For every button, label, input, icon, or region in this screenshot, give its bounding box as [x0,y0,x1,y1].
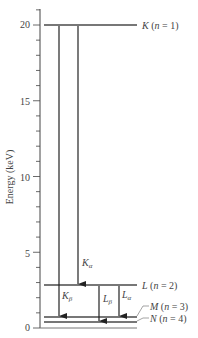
level-label-K: K (n = 1) [141,20,179,32]
level-label-L: L (n = 2) [141,280,177,292]
y-axis-label: Energy (keV) [4,150,16,205]
tick-label-20: 20 [20,19,30,30]
energy-levels [40,25,137,328]
tick-label-5: 5 [25,248,30,259]
level-label-M: M (n = 3) [149,301,188,313]
leader-N [137,318,149,321]
tick-label-15: 15 [20,96,30,107]
tick-label-10: 10 [20,172,30,183]
label-K-alpha: Kα [81,257,93,270]
label-K-beta: Kβ [61,290,73,303]
y-axis: 20 15 10 5 0 Energy (keV) [4,9,40,333]
leader-M [137,306,149,316]
label-L-beta: Lβ [102,293,113,306]
transitions: Kα Kβ Lβ Lα [59,26,132,321]
label-L-alpha: Lα [121,289,132,302]
tick-label-0: 0 [25,322,30,333]
energy-level-diagram: 20 15 10 5 0 Energy (keV) K (n = 1) L (n… [0,0,198,338]
level-label-N: N (n = 4) [149,313,187,325]
level-labels: K (n = 1) L (n = 2) M (n = 3) N (n = 4) [137,20,188,325]
y-axis-ticks [33,10,40,328]
